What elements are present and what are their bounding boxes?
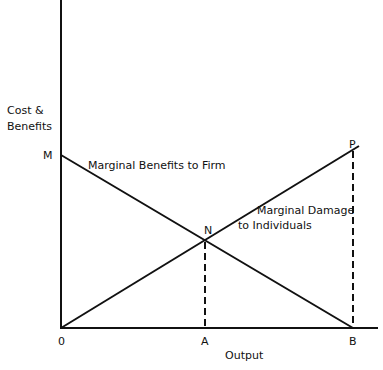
point-P-label: P bbox=[349, 138, 356, 151]
point-N-label: N bbox=[204, 224, 212, 237]
marginal-damage-line bbox=[61, 146, 359, 328]
point-A-label: A bbox=[201, 335, 209, 348]
y-axis-label-line1: Cost & bbox=[7, 104, 52, 117]
x-axis-label: Output bbox=[225, 349, 263, 362]
marginal-benefits-label: Marginal Benefits to Firm bbox=[88, 159, 226, 172]
point-M-label: M bbox=[43, 149, 53, 162]
diagram-canvas bbox=[0, 0, 383, 370]
y-axis-label-line2: Benefits bbox=[7, 120, 52, 133]
y-axis-label: Cost & Benefits bbox=[7, 104, 52, 133]
point-B-label: B bbox=[349, 335, 357, 348]
marginal-damage-label-line1: Marginal Damage bbox=[257, 204, 354, 217]
marginal-damage-label-line2: to Individuals bbox=[238, 219, 354, 232]
origin-label: 0 bbox=[58, 335, 65, 348]
marginal-damage-label: Marginal Damage to Individuals bbox=[257, 204, 354, 232]
